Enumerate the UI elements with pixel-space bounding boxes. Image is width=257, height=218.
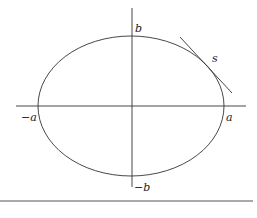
label-tangent-s: s: [212, 52, 218, 65]
ellipse-diagram: −a a b −b s: [0, 0, 257, 218]
label-neg-a: −a: [21, 111, 37, 124]
label-neg-b: −b: [134, 181, 150, 194]
diagram-svg: −a a b −b s: [0, 0, 257, 218]
label-pos-b: b: [135, 22, 142, 35]
label-pos-a: a: [226, 111, 233, 124]
tangent-line: [180, 37, 232, 93]
